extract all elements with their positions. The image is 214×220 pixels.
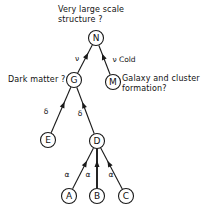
node-label-D: D (94, 136, 101, 146)
node-E[interactable]: E (41, 133, 56, 148)
arrowhead-B-D (95, 161, 100, 167)
edge-M-N (99, 45, 110, 74)
node-label-M: M (109, 77, 117, 87)
node-label-A: A (66, 191, 73, 201)
arrowhead-G-N (83, 53, 88, 60)
edge-E-G (51, 87, 71, 132)
edge-G-N (78, 45, 93, 73)
node-label-G: G (71, 75, 78, 85)
edge-C-D (101, 148, 123, 189)
node-label-C: C (123, 191, 129, 201)
edge-label-C-D: α (109, 170, 114, 179)
node-C[interactable]: C (119, 189, 134, 204)
arrowhead-C-D (107, 161, 112, 168)
node-A[interactable]: A (62, 189, 77, 204)
tree-diagram: νν Coldδδααα NGMEDABC (0, 0, 214, 220)
arrowhead-M-N (102, 54, 107, 61)
dark-matter-annotation: Dark matter ? (8, 75, 70, 85)
very-large-scale-structure-annotation: Very large scale structure ? (58, 5, 162, 24)
diagram-canvas: νν Coldδδααα NGMEDABC Very large scale s… (0, 0, 214, 220)
node-N[interactable]: N (89, 31, 104, 46)
arrowhead-A-D (82, 161, 87, 168)
node-label-B: B (94, 191, 100, 201)
edges-layer (51, 45, 122, 189)
edge-label-D-G: δ (78, 109, 83, 118)
edge-label-M-N: ν Cold (112, 55, 135, 64)
arrowhead-E-G (60, 102, 65, 109)
edge-label-A-D: α (65, 170, 70, 179)
node-D[interactable]: D (90, 134, 105, 149)
edge-labels-layer: νν Coldδδααα (44, 54, 136, 179)
node-B[interactable]: B (90, 189, 105, 204)
node-M[interactable]: M (106, 75, 121, 90)
arrowhead-D-G (82, 102, 87, 109)
galaxy-and-cluster-formation-annotation: Galaxy and cluster formation? (122, 74, 214, 93)
edge-A-D (73, 148, 94, 189)
node-label-N: N (93, 33, 100, 43)
edge-label-G-N: ν (75, 54, 79, 63)
edge-label-B-D: α (86, 170, 91, 179)
arrowheads-layer (60, 53, 113, 168)
edge-label-E-G: δ (44, 107, 49, 116)
node-label-E: E (45, 135, 51, 145)
